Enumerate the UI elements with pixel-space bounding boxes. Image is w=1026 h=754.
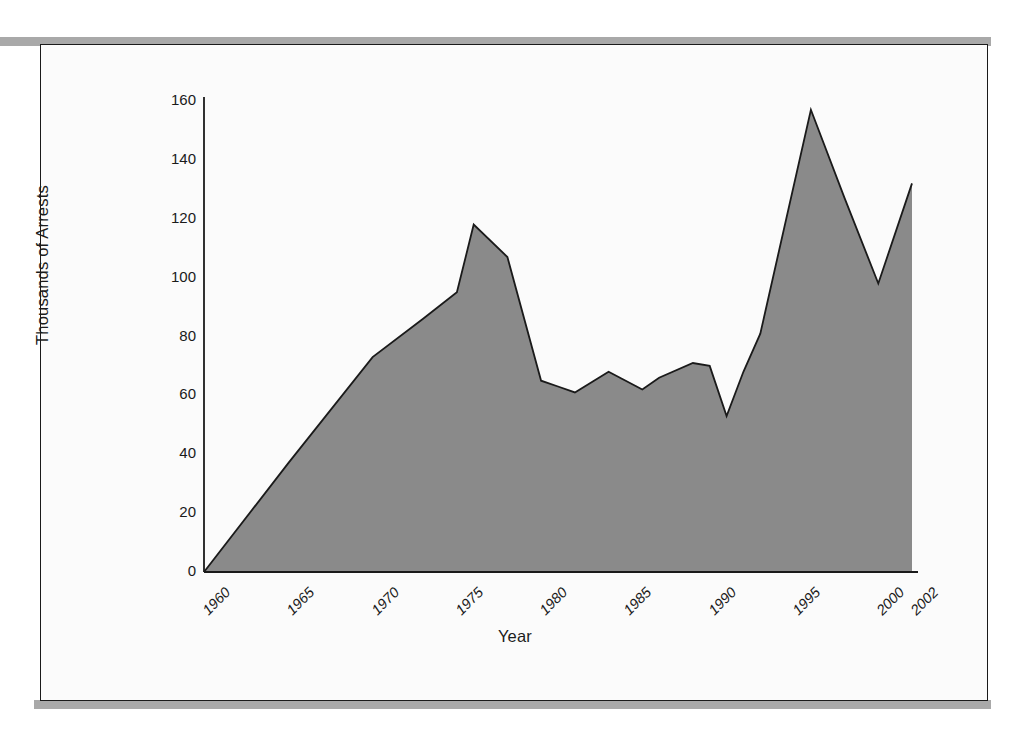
y-tick-label: 40: [140, 444, 196, 461]
y-tick-label: 140: [140, 150, 196, 167]
area-chart-plot: [41, 45, 989, 702]
y-tick-label: 80: [140, 327, 196, 344]
figure-frame: 020406080100120140160 196019651970197519…: [40, 44, 988, 701]
y-tick-label: 160: [140, 91, 196, 108]
x-axis-title: Year: [41, 627, 989, 646]
chart-area: 020406080100120140160 196019651970197519…: [41, 45, 989, 702]
y-tick-label: 100: [140, 268, 196, 285]
y-tick-label: 120: [140, 209, 196, 226]
y-tick-label: 20: [140, 503, 196, 520]
y-axis-title: Thousands of Arrests: [33, 185, 52, 345]
page-canvas: 020406080100120140160 196019651970197519…: [0, 0, 1026, 754]
y-tick-label: 60: [140, 385, 196, 402]
area-series-arrests: [204, 110, 912, 572]
y-tick-label: 0: [140, 562, 196, 579]
